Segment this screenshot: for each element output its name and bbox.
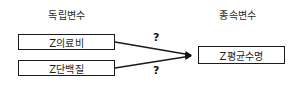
node-average-lifespan: Z평균수명 bbox=[198, 46, 285, 64]
node-average-lifespan-label: Z평균수명 bbox=[220, 48, 264, 63]
node-medical-expense-label: Z의료비 bbox=[49, 35, 84, 50]
diagram-canvas: 독립변수 종속변수 Z의료비 Z단백질 Z평균수명 ? ? bbox=[0, 0, 298, 88]
node-protein: Z단백질 bbox=[18, 60, 115, 76]
edge-label-question-mark-top: ? bbox=[153, 31, 159, 44]
node-medical-expense: Z의료비 bbox=[18, 34, 115, 50]
node-protein-label: Z단백질 bbox=[49, 61, 84, 76]
edge-label-question-mark-bottom: ? bbox=[153, 64, 159, 77]
